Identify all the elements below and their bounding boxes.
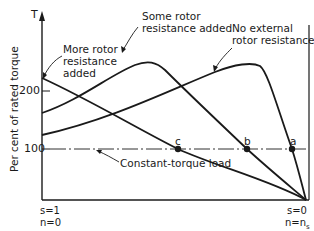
label-some-rotor-line2: resistance added	[142, 23, 232, 34]
point-a-label: a	[290, 136, 296, 147]
label-more-rotor-line3: added	[63, 68, 96, 79]
curve-no-external-resistance	[42, 64, 306, 200]
label-more-rotor-line1: More rotor	[63, 44, 118, 55]
left-speed-label: n=0	[40, 217, 61, 228]
y-axis-label: Per cent of rated torque	[8, 52, 20, 172]
right-speed-subscript: s	[306, 223, 310, 231]
right-speed-label: n=ns	[285, 217, 310, 231]
label-more-rotor-line2: resistance	[63, 56, 117, 67]
label-no-external-line1: No external	[232, 23, 293, 34]
y-axis-symbol: T	[31, 9, 38, 20]
y-axis-arrow-icon	[39, 11, 45, 21]
point-b-label: b	[244, 136, 251, 147]
leader-constant-load	[98, 151, 119, 162]
curve-some-rotor-resistance	[42, 62, 306, 200]
right-slip-label: s=0	[287, 205, 307, 216]
leader-more-rotor	[44, 56, 62, 76]
point-c-label: c	[175, 136, 181, 147]
label-some-rotor-line1: Some rotor	[142, 11, 200, 22]
leader-no-external	[215, 48, 232, 69]
label-constant-load: Constant-torque load	[120, 158, 231, 169]
right-speed-text: n=n	[285, 217, 306, 228]
leader-arrow-more-icon	[43, 72, 47, 79]
curve-more-rotor-resistance	[42, 78, 306, 200]
tick-label-100: 100	[24, 143, 45, 154]
torque-slip-chart: T Per cent of rated torque 200 100 More …	[0, 0, 314, 231]
label-no-external-line2: rotor resistance	[232, 35, 314, 46]
leader-some-rotor	[123, 27, 138, 50]
left-slip-label: s=1	[40, 205, 60, 216]
tick-label-200: 200	[19, 85, 40, 96]
